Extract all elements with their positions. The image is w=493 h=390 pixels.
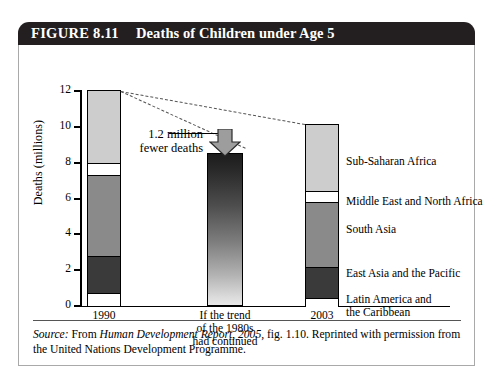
y-tick-8 xyxy=(74,162,80,164)
callout-annotation: 1.2 million fewer deaths xyxy=(119,127,203,155)
callout-line1: 1.2 million xyxy=(148,127,203,141)
segment-2003-middle-east-north-africa xyxy=(306,192,338,202)
segment-1990-sub-saharan-africa xyxy=(88,91,120,163)
figure-title-bar: FIGURE 8.11 Deaths of Children under Age… xyxy=(18,22,475,46)
y-tick-6 xyxy=(74,198,80,200)
bar-2003[interactable] xyxy=(305,124,339,306)
segment-1990-latin-america-caribbean xyxy=(88,294,120,306)
source-work-title: Human Development Report, 2005 xyxy=(100,328,262,341)
y-tick-label-0: 0 xyxy=(49,299,71,311)
chart-plot-area: Deaths (millions) 12 10 8 6 4 2 0 xyxy=(19,45,476,315)
down-arrow-icon xyxy=(209,129,241,157)
legend-label-latin-america-line1: Latin America and xyxy=(346,293,432,306)
figure-card: FIGURE 8.11 Deaths of Children under Age… xyxy=(18,22,475,366)
y-tick-label-4: 4 xyxy=(49,227,71,239)
source-divider xyxy=(33,320,461,321)
y-axis-title: Deaths (millions) xyxy=(31,103,46,223)
source-lead: Source: xyxy=(33,328,69,341)
segment-2003-sub-saharan-africa xyxy=(306,125,338,191)
segment-1990-east-asia-pacific xyxy=(88,257,120,294)
source-text-before: From xyxy=(69,328,100,341)
figure-number: FIGURE 8.11 xyxy=(31,25,119,42)
projection-line-to-2003-bar xyxy=(121,91,305,125)
y-tick-12 xyxy=(74,90,80,92)
callout-line2: fewer deaths xyxy=(139,141,203,155)
legend-label-sub-saharan-africa: Sub-Saharan Africa xyxy=(346,155,436,168)
bar-if-trend-continued[interactable] xyxy=(207,153,243,306)
figure-title: Deaths of Children under Age 5 xyxy=(136,25,335,42)
legend-label-south-asia: South Asia xyxy=(346,223,396,236)
y-tick-4 xyxy=(74,233,80,235)
legend-label-latin-america-line2: the Caribbean xyxy=(346,306,410,319)
y-tick-0 xyxy=(74,305,80,307)
segment-1990-middle-east-north-africa xyxy=(88,164,120,176)
segment-1990-south-asia xyxy=(88,176,120,256)
y-tick-label-8: 8 xyxy=(49,156,71,168)
segment-2003-latin-america-caribbean xyxy=(306,299,338,307)
y-tick-10 xyxy=(74,126,80,128)
legend-label-middle-east-north-africa: Middle East and North Africa xyxy=(346,195,483,208)
y-tick-2 xyxy=(74,269,80,271)
segment-2003-east-asia-pacific xyxy=(306,268,338,298)
bar-1990[interactable] xyxy=(87,90,121,306)
y-tick-label-6: 6 xyxy=(49,192,71,204)
legend-label-east-asia-pacific: East Asia and the Pacific xyxy=(346,267,460,280)
source-note: Source: From Human Development Report, 2… xyxy=(33,328,461,357)
y-tick-label-10: 10 xyxy=(49,120,71,132)
segment-2003-south-asia xyxy=(306,203,338,267)
y-tick-label-2: 2 xyxy=(49,263,71,275)
figure-body: Deaths (millions) 12 10 8 6 4 2 0 xyxy=(18,45,475,366)
y-tick-label-12: 12 xyxy=(49,84,71,96)
y-axis-line xyxy=(80,90,82,306)
